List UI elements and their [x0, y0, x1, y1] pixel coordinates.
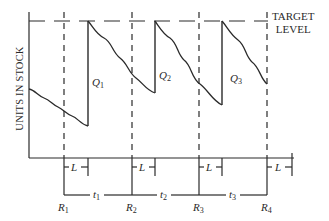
target-level-label: TARGET LEVEL [272, 10, 315, 36]
review-point-label-1: R1 [58, 202, 69, 216]
interval-label-3: t3 [229, 189, 236, 203]
lead-time-label-3: L [206, 162, 212, 173]
review-point-label-4: R4 [261, 202, 272, 216]
order-quantity-label-1: Q1 [92, 77, 104, 91]
lead-time-label-1: L [71, 162, 77, 173]
target-label-line1: TARGET [272, 10, 315, 23]
lead-time-label-4: L [275, 162, 281, 173]
interval-label-2: t2 [160, 189, 167, 203]
review-point-label-2: R2 [126, 202, 137, 216]
interval-label-1: t1 [93, 189, 100, 203]
target-label-line2: LEVEL [272, 23, 315, 36]
lead-time-bracket-4 [267, 153, 292, 195]
order-quantity-label-2: Q2 [159, 70, 171, 84]
stock-curve-segment-0 [29, 89, 88, 126]
y-axis-label: UNITS IN STOCK [14, 34, 25, 144]
order-quantity-label-3: Q3 [230, 73, 242, 87]
stock-curve-segment-3 [222, 21, 267, 84]
review-point-label-3: R3 [193, 202, 204, 216]
stock-curve-segment-2 [155, 21, 222, 105]
lead-time-label-2: L [139, 162, 145, 173]
